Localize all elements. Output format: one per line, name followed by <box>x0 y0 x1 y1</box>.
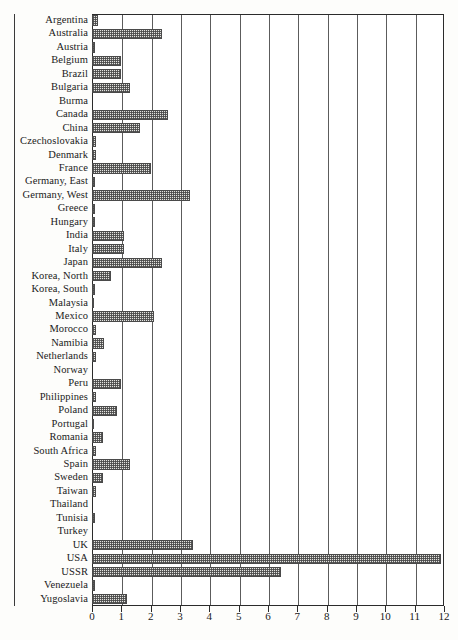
bar-row: Netherlands <box>0 350 458 363</box>
category-label: Yugoslavia <box>0 592 88 605</box>
category-label: Greece <box>0 201 88 214</box>
bar <box>92 244 124 254</box>
bar <box>92 15 98 25</box>
bar-row: Namibia <box>0 337 458 350</box>
x-tick-label: 6 <box>265 610 271 622</box>
category-label: Morocco <box>0 322 88 335</box>
bar <box>92 150 96 160</box>
bar-row: Taiwan <box>0 485 458 498</box>
category-label: France <box>0 161 88 174</box>
x-tick-label: 2 <box>148 610 154 622</box>
bar-row: South Africa <box>0 445 458 458</box>
bar-row: Poland <box>0 404 458 417</box>
bar <box>92 567 281 577</box>
category-label: Turkey <box>0 524 88 537</box>
bar <box>92 231 124 241</box>
category-label: Burma <box>0 94 88 107</box>
x-tick-label: 11 <box>409 610 420 622</box>
bar <box>92 446 96 456</box>
bar-row: Peru <box>0 377 458 390</box>
category-label: Taiwan <box>0 484 88 497</box>
bar-row: Brazil <box>0 68 458 81</box>
bar-row: Denmark <box>0 149 458 162</box>
bar-row: Venezuela <box>0 579 458 592</box>
category-label: Japan <box>0 255 88 268</box>
bar <box>92 554 441 564</box>
category-label: Spain <box>0 457 88 470</box>
bar-row: India <box>0 229 458 242</box>
category-label: Brazil <box>0 67 88 80</box>
x-tick-label: 12 <box>439 610 450 622</box>
category-label: Philippines <box>0 390 88 403</box>
bar <box>92 473 103 483</box>
bar <box>92 136 96 146</box>
bar-row: Spain <box>0 458 458 471</box>
category-label: Germany, East <box>0 174 88 187</box>
bar-row: Burma <box>0 95 458 108</box>
bar <box>92 325 96 335</box>
bar <box>92 419 94 429</box>
bar-row: France <box>0 162 458 175</box>
bar <box>92 271 111 281</box>
bar <box>92 284 95 294</box>
bar-row: USA <box>0 552 458 565</box>
bar-row: Belgium <box>0 54 458 67</box>
bar-row: Norway <box>0 364 458 377</box>
bar <box>92 486 96 496</box>
category-label: Czechoslovakia <box>0 134 88 147</box>
bar <box>92 379 121 389</box>
category-label: Korea, North <box>0 269 88 282</box>
bar <box>92 204 95 214</box>
bar-row: Argentina <box>0 14 458 27</box>
category-label: Thailand <box>0 497 88 510</box>
bar-row: Hungary <box>0 216 458 229</box>
bar-row: Morocco <box>0 323 458 336</box>
bar <box>92 392 96 402</box>
category-label: Sweden <box>0 470 88 483</box>
bar <box>92 69 121 79</box>
category-label: Argentina <box>0 13 88 26</box>
bar-row: Korea, North <box>0 270 458 283</box>
bar <box>92 190 190 200</box>
x-tick-label: 7 <box>295 610 301 622</box>
category-label: Canada <box>0 107 88 120</box>
category-label: Malaysia <box>0 296 88 309</box>
bar-row: Thailand <box>0 498 458 511</box>
x-tick-label: 8 <box>324 610 330 622</box>
category-label: China <box>0 121 88 134</box>
bar-row: Mexico <box>0 310 458 323</box>
bar-row: Philippines <box>0 391 458 404</box>
bar-row: Germany, East <box>0 175 458 188</box>
bar-row: Austria <box>0 41 458 54</box>
x-tick-label: 4 <box>207 610 213 622</box>
bar-row: Portugal <box>0 418 458 431</box>
category-label: Austria <box>0 40 88 53</box>
category-label: Venezuela <box>0 578 88 591</box>
category-label: Namibia <box>0 336 88 349</box>
category-label: USA <box>0 551 88 564</box>
bar <box>92 42 95 52</box>
bar-row: Italy <box>0 243 458 256</box>
category-label: India <box>0 228 88 241</box>
bar-chart: ArgentinaAustraliaAustriaBelgiumBrazilBu… <box>0 0 458 640</box>
x-tick-label: 1 <box>119 610 125 622</box>
bar <box>92 594 127 604</box>
x-tick-label: 0 <box>89 610 95 622</box>
bar-row: Yugoslavia <box>0 593 458 606</box>
category-label: Portugal <box>0 417 88 430</box>
category-label: South Africa <box>0 444 88 457</box>
bar-row: Korea, South <box>0 283 458 296</box>
bar <box>92 110 168 120</box>
bar-row: Australia <box>0 27 458 40</box>
category-label: Hungary <box>0 215 88 228</box>
category-label: Netherlands <box>0 349 88 362</box>
category-label: Poland <box>0 403 88 416</box>
x-tick-label: 5 <box>236 610 242 622</box>
bar-row: Bulgaria <box>0 81 458 94</box>
category-label: Denmark <box>0 148 88 161</box>
bar-row: Czechoslovakia <box>0 135 458 148</box>
bar <box>92 56 121 66</box>
bar-row: Malaysia <box>0 297 458 310</box>
category-label: Korea, South <box>0 282 88 295</box>
bar-row: UK <box>0 539 458 552</box>
